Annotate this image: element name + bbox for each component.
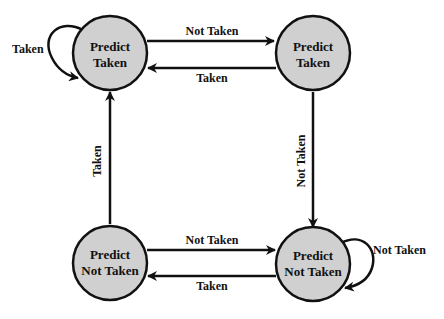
- edge-label-s1-s0: Taken: [196, 71, 228, 85]
- state-label-line2: Taken: [296, 55, 331, 70]
- state-label-line1: Predict: [90, 247, 131, 262]
- state-predict-not-taken-weak: Predict Not Taken: [73, 226, 147, 300]
- edge-label-s0-s1: Not Taken: [185, 24, 238, 38]
- state-diagram: Predict Taken Predict Taken Predict Not …: [0, 0, 444, 319]
- state-label-line1: Predict: [293, 39, 334, 54]
- edge-label-s2-s0: Taken: [90, 145, 104, 177]
- state-predict-taken-weak: Predict Taken: [276, 16, 350, 90]
- state-label-line1: Predict: [293, 248, 334, 263]
- edge-label-s2-s3: Not Taken: [185, 233, 238, 247]
- edge-label-s1-s3: Not Taken: [294, 134, 308, 187]
- state-label-line1: Predict: [90, 39, 131, 54]
- edge-label-s3-s2: Taken: [196, 279, 228, 293]
- state-predict-taken-strong: Predict Taken: [73, 16, 147, 90]
- edge-label-s0-s0: Taken: [12, 42, 44, 56]
- state-label-line2: Taken: [93, 55, 128, 70]
- state-label-line2: Not Taken: [81, 263, 139, 278]
- state-predict-not-taken-strong: Predict Not Taken: [276, 227, 350, 301]
- state-label-line2: Not Taken: [284, 264, 342, 279]
- edge-label-s3-s3: Not Taken: [373, 243, 426, 257]
